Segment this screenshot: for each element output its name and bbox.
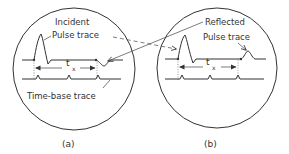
caption-a: (a) <box>62 139 75 149</box>
interval-label-a: t <box>66 58 70 68</box>
panel-b: t x Reflected Pulse trace (b) <box>157 8 277 149</box>
label-incident: Incident <box>55 17 90 27</box>
panel-a: t x Incident Pulse trace Time-base trace… <box>13 8 135 149</box>
caption-b: (b) <box>204 139 217 149</box>
echo-start-marker-b <box>240 58 242 60</box>
label-pulse-trace-b: Pulse trace <box>203 32 250 42</box>
leader-incident-pulse <box>44 36 51 40</box>
interval-subscript-b: x <box>212 64 216 71</box>
interval-label-b: t <box>206 57 210 67</box>
leader-time-base <box>103 80 110 88</box>
label-reflected: Reflected <box>205 17 245 27</box>
interval-subscript-a: x <box>72 65 76 72</box>
label-time-base-trace: Time-base trace <box>26 91 96 101</box>
label-pulse-trace-a: Pulse trace <box>52 30 99 40</box>
arrow-incident-to-panel-b <box>113 37 176 49</box>
time-base-trace-a <box>22 75 121 79</box>
pulse-reflection-diagram: t x Incident Pulse trace Time-base trace… <box>0 0 289 154</box>
time-base-trace-b <box>165 75 264 79</box>
leader-reflected-pulse <box>238 43 246 50</box>
arrow-reflected-to-panel-a <box>108 22 203 61</box>
